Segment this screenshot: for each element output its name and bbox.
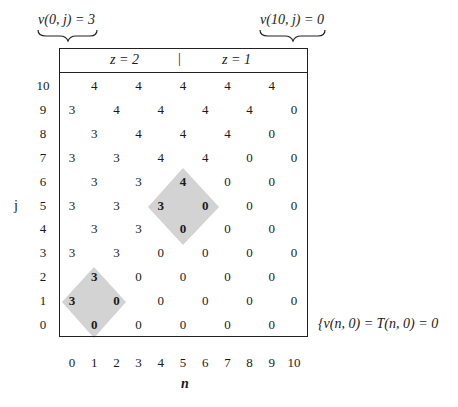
grid-value: 4 [269, 78, 276, 94]
grid-value: 4 [113, 102, 120, 118]
left-boundary-annotation: v(0, j) = 3 [38, 12, 95, 28]
grid-value: 0 [291, 198, 298, 214]
y-tick: 8 [40, 126, 47, 142]
grid-value: 4 [180, 126, 187, 142]
x-tick: 4 [158, 355, 165, 371]
x-tick: 1 [91, 355, 98, 371]
grid-value: 0 [180, 221, 187, 237]
grid-value: 0 [269, 317, 276, 333]
grid-value: 0 [158, 245, 165, 261]
grid-value: 0 [291, 245, 298, 261]
brace-right [260, 30, 325, 41]
brace-left [38, 30, 97, 41]
grid-value: 0 [224, 174, 231, 190]
grid-value: 0 [291, 293, 298, 309]
grid-value: 4 [158, 102, 165, 118]
y-tick: 5 [40, 198, 47, 214]
grid-value: 0 [180, 317, 187, 333]
y-tick: 6 [40, 174, 47, 190]
grid-value: 0 [224, 269, 231, 285]
grid-value: 4 [135, 126, 142, 142]
grid-value: 0 [246, 245, 253, 261]
y-tick: 10 [37, 78, 50, 94]
grid-value: 0 [113, 293, 120, 309]
grid-value: 4 [91, 78, 98, 94]
y-tick: 4 [40, 221, 47, 237]
x-tick: 9 [269, 355, 276, 371]
grid-value: 3 [135, 174, 142, 190]
grid-value: 4 [224, 126, 231, 142]
grid-value: 4 [202, 102, 209, 118]
bottom-boundary-annotation: {v(n, 0) = T(n, 0) = 0 [318, 316, 438, 332]
grid-value: 3 [158, 198, 165, 214]
grid-value: 0 [269, 269, 276, 285]
grid-value: 0 [202, 293, 209, 309]
grid-value: 3 [113, 245, 120, 261]
x-tick: 5 [180, 355, 187, 371]
x-tick: 3 [135, 355, 142, 371]
grid-value: 0 [135, 317, 142, 333]
grid-value: 4 [158, 150, 165, 166]
x-tick: 2 [113, 355, 120, 371]
y-tick: 0 [40, 317, 47, 333]
y-tick: 7 [40, 150, 47, 166]
grid-value: 3 [69, 293, 76, 309]
grid-value: 0 [291, 150, 298, 166]
header-z2-label: z = 2 [110, 52, 139, 68]
grid-value: 3 [113, 150, 120, 166]
grid-value: 3 [69, 245, 76, 261]
grid-value: 0 [91, 317, 98, 333]
header-row [59, 48, 308, 73]
grid-value: 0 [269, 221, 276, 237]
grid-value: 0 [246, 150, 253, 166]
grid-value: 4 [180, 78, 187, 94]
grid-value: 3 [91, 269, 98, 285]
x-tick: 8 [246, 355, 253, 371]
x-tick: 6 [202, 355, 209, 371]
grid-value: 3 [91, 126, 98, 142]
grid-value: 4 [135, 78, 142, 94]
y-tick: 2 [40, 269, 47, 285]
grid-value: 4 [202, 150, 209, 166]
y-tick: 3 [40, 245, 47, 261]
grid-value: 0 [269, 126, 276, 142]
y-axis-label: j [14, 198, 18, 214]
grid-value: 0 [224, 317, 231, 333]
grid-value: 3 [91, 174, 98, 190]
grid-value: 4 [246, 102, 253, 118]
grid-value: 0 [246, 293, 253, 309]
y-tick: 1 [40, 293, 47, 309]
grid-value: 0 [135, 269, 142, 285]
grid-value: 3 [91, 221, 98, 237]
grid-value: 0 [224, 221, 231, 237]
grid-value: 3 [135, 221, 142, 237]
grid-value: 0 [158, 293, 165, 309]
grid-value: 0 [269, 174, 276, 190]
grid-value: 0 [202, 198, 209, 214]
x-tick: 0 [69, 355, 76, 371]
grid-value: 3 [69, 102, 76, 118]
grid-value: 3 [113, 198, 120, 214]
grid-value: 0 [202, 245, 209, 261]
x-tick: 7 [224, 355, 231, 371]
grid-value: 0 [180, 269, 187, 285]
grid-value: 4 [180, 174, 187, 190]
header-z1-label: z = 1 [222, 52, 251, 68]
grid-value: 0 [291, 102, 298, 118]
grid-value: 3 [69, 198, 76, 214]
grid-value: 0 [246, 198, 253, 214]
header-separator: | [178, 51, 181, 67]
grid-value: 3 [69, 150, 76, 166]
x-axis-label: n [181, 376, 189, 392]
x-tick: 10 [288, 355, 301, 371]
grid-value: 4 [224, 78, 231, 94]
right-boundary-annotation: v(10, j) = 0 [260, 12, 324, 28]
y-tick: 9 [40, 102, 47, 118]
